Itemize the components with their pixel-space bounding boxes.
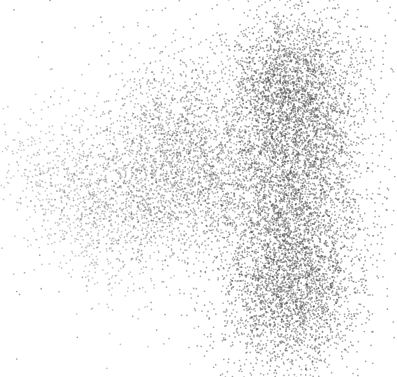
- scatter-plot-figure: [0, 0, 397, 377]
- scatter-plot-canvas: [0, 0, 397, 377]
